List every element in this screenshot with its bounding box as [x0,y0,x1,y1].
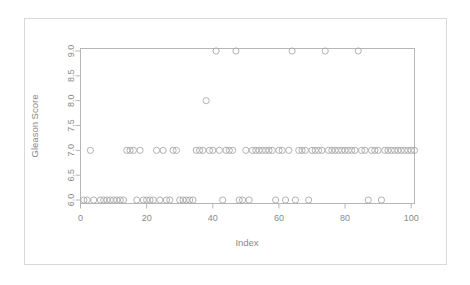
x-tick-label: 20 [142,213,152,223]
x-axis: 020406080100 [78,204,419,223]
x-tick-label: 40 [208,213,218,223]
y-tick-label: 8.5 [66,70,76,83]
data-point [87,147,93,153]
plot-frame [81,49,415,204]
data-point [365,197,371,203]
y-tick-label: 8.0 [66,94,76,107]
x-tick-label: 100 [404,213,419,223]
data-point [216,147,222,153]
y-tick-label: 6.0 [66,194,76,207]
scatter-plot: 020406080100 6.06.57.07.58.08.59.0 Index… [0,0,470,285]
y-tick-label: 7.0 [66,144,76,157]
data-point [286,147,292,153]
data-point [306,197,312,203]
data-point [243,147,249,153]
y-axis: 6.06.57.07.58.08.59.0 [66,45,81,207]
data-point [378,197,384,203]
data-point [157,197,163,203]
data-point [203,98,209,104]
data-point [134,197,140,203]
data-point [91,197,97,203]
data-point [160,147,166,153]
y-tick-label: 7.5 [66,119,76,132]
x-tick-label: 60 [274,213,284,223]
x-tick-label: 80 [340,213,350,223]
data-point [220,197,226,203]
x-axis-title: Index [235,237,258,248]
data-point [137,147,143,153]
y-tick-label: 6.5 [66,169,76,182]
data-point [282,197,288,203]
data-point [246,197,252,203]
data-point [292,197,298,203]
y-axis-title: Gleason Score [29,95,40,158]
data-point [153,147,159,153]
data-points-layer [81,48,418,203]
data-point [273,197,279,203]
x-tick-label: 0 [78,213,83,223]
figure-container: 020406080100 6.06.57.07.58.08.59.0 Index… [0,0,470,285]
y-tick-label: 9.0 [66,45,76,58]
